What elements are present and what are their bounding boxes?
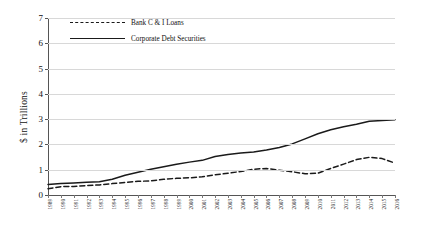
x-axis-tick-mark: [331, 195, 332, 198]
x-axis-tick-mark: [151, 195, 152, 198]
x-axis-tick-mark: [254, 195, 255, 198]
x-axis-tick-mark: [318, 195, 319, 198]
series-line-bank-c-i-loans: [48, 157, 395, 188]
y-axis-tick-label: 2: [39, 139, 44, 149]
x-axis-tick-mark: [138, 195, 139, 198]
x-axis-tick-mark: [344, 195, 345, 198]
x-axis-tick-mark: [125, 195, 126, 198]
x-axis-tick-label: 2000: [188, 199, 194, 209]
legend-item-corporate-debt: Corporate Debt Securities: [70, 33, 206, 44]
x-axis-tick-label: 2015: [381, 199, 387, 209]
gridline: [48, 119, 395, 120]
x-axis-tick-label: 1995: [124, 199, 130, 209]
x-axis-labels: 1989199019911992199319941995199619971998…: [48, 199, 395, 229]
x-axis-tick-mark: [74, 195, 75, 198]
legend-item-bank-loans: Bank C & I Loans: [70, 17, 206, 28]
x-axis-tick-label: 1992: [86, 199, 92, 209]
y-axis-tick-mark: [45, 43, 48, 44]
x-axis-tick-mark: [177, 195, 178, 198]
line-chart: $ in Trillions 01234567 1989199019911992…: [0, 0, 430, 233]
x-axis-tick-mark: [99, 195, 100, 198]
x-axis-tick-label: 2011: [330, 199, 336, 209]
y-axis-tick-label: 7: [39, 13, 44, 23]
y-axis-tick-mark: [45, 18, 48, 19]
y-axis-tick-label: 3: [39, 114, 44, 124]
x-axis-tick-mark: [305, 195, 306, 198]
y-axis-tick-mark: [45, 119, 48, 120]
x-axis-tick-mark: [241, 195, 242, 198]
gridline: [48, 69, 395, 70]
x-axis-tick-mark: [61, 195, 62, 198]
x-axis-tick-label: 2007: [278, 199, 284, 209]
x-axis-tick-label: 2008: [291, 199, 297, 209]
x-axis-tick-label: 2005: [253, 199, 259, 209]
x-axis-tick-mark: [112, 195, 113, 198]
x-axis-tick-mark: [228, 195, 229, 198]
x-axis-tick-mark: [382, 195, 383, 198]
x-axis-tick-mark: [48, 195, 49, 198]
gridline: [48, 170, 395, 171]
legend-swatch-dashed-icon: [70, 22, 125, 23]
x-axis-tick-mark: [202, 195, 203, 198]
y-axis-tick-label: 4: [39, 89, 44, 99]
x-axis-tick-label: 2010: [317, 199, 323, 209]
x-axis-tick-mark: [215, 195, 216, 198]
y-axis-tick-label: 1: [39, 165, 44, 175]
x-axis-tick-label: 1989: [47, 199, 53, 209]
series-line-corporate-debt-securities: [48, 120, 395, 185]
y-axis-tick-label: 6: [39, 38, 44, 48]
x-axis-tick-label: 1994: [111, 199, 117, 209]
x-axis-tick-label: 1990: [60, 199, 66, 209]
x-axis-tick-mark: [87, 195, 88, 198]
x-axis-tick-label: 2016: [394, 199, 400, 209]
legend-label-corporate-debt: Corporate Debt Securities: [131, 35, 206, 43]
gridline: [48, 144, 395, 145]
x-axis-tick-label: 1991: [73, 199, 79, 209]
y-axis-tick-mark: [45, 94, 48, 95]
plot-area: 01234567: [48, 18, 395, 195]
y-axis-title-wrap: $ in Trillions: [14, 0, 34, 233]
chart-legend: Bank C & I Loans Corporate Debt Securiti…: [70, 17, 206, 44]
series-paths: [48, 18, 395, 195]
x-axis-tick-mark: [395, 195, 396, 198]
x-axis-tick-label: 1993: [98, 199, 104, 209]
x-axis-tick-label: 2002: [214, 199, 220, 209]
x-axis-tick-mark: [279, 195, 280, 198]
x-axis-tick-mark: [369, 195, 370, 198]
x-axis-tick-label: 2009: [304, 199, 310, 209]
x-axis-tick-mark: [164, 195, 165, 198]
x-axis-tick-mark: [189, 195, 190, 198]
x-axis-tick-label: 1996: [137, 199, 143, 209]
x-axis-tick-mark: [266, 195, 267, 198]
y-axis-tick-mark: [45, 144, 48, 145]
x-axis-tick-label: 2003: [227, 199, 233, 209]
y-axis-tick-label: 0: [39, 190, 44, 200]
x-axis-tick-mark: [292, 195, 293, 198]
gridline: [48, 94, 395, 95]
x-axis-tick-label: 2004: [240, 199, 246, 209]
x-axis-tick-label: 1997: [150, 199, 156, 209]
x-axis-tick-mark: [356, 195, 357, 198]
x-axis-tick-label: 2013: [355, 199, 361, 209]
x-axis-tick-label: 2014: [368, 199, 374, 209]
x-axis-tick-label: 1999: [176, 199, 182, 209]
y-axis-title: $ in Trillions: [19, 91, 29, 143]
legend-label-bank-loans: Bank C & I Loans: [131, 19, 184, 27]
y-axis-tick-mark: [45, 170, 48, 171]
y-axis-tick-mark: [45, 69, 48, 70]
x-axis-tick-label: 2012: [343, 199, 349, 209]
y-axis-tick-label: 5: [39, 64, 44, 74]
x-axis-tick-label: 1998: [163, 199, 169, 209]
x-axis-tick-label: 2006: [265, 199, 271, 209]
x-axis-tick-label: 2001: [201, 199, 207, 209]
legend-swatch-solid-icon: [70, 38, 125, 39]
